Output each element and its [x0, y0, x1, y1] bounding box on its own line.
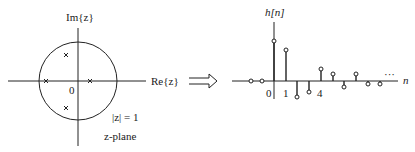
sample-marker-icon	[307, 90, 311, 94]
z-plane-diagram: Im{z} Re{z} 0 |z| = 1 z-plane	[8, 11, 179, 146]
im-axis-label: Im{z}	[66, 11, 94, 23]
sample-marker-icon	[260, 79, 264, 83]
figure: Im{z} Re{z} 0 |z| = 1 z-plane h[n] n 0 1…	[0, 0, 415, 152]
sample-marker-icon	[249, 79, 253, 83]
sample-marker-icon	[378, 82, 382, 86]
sample-marker-icon	[284, 48, 288, 52]
ellipsis: ···	[384, 68, 395, 80]
sample-marker-icon	[272, 39, 276, 43]
pole-marker-icon	[64, 106, 68, 110]
pole-marker-icon	[64, 53, 68, 57]
origin-label: 0	[69, 84, 75, 96]
sample-marker-icon	[342, 85, 346, 89]
n-axis-label: n	[403, 74, 409, 86]
z-plane-label: z-plane	[104, 130, 136, 142]
implies-arrow-icon	[189, 74, 217, 88]
re-axis-label: Re{z}	[151, 75, 179, 87]
h-axis-label: h[n]	[265, 6, 285, 18]
sample-marker-icon	[331, 72, 335, 76]
sample-marker-icon	[295, 95, 299, 99]
tick-label-1: 1	[283, 87, 289, 99]
tick-label-0: 0	[266, 87, 272, 99]
unit-circle-label: |z| = 1	[112, 111, 139, 123]
tick-label-4: 4	[317, 87, 323, 99]
sample-marker-icon	[319, 67, 323, 71]
stems	[274, 42, 380, 96]
stem-plot: h[n] n 0 1 4 ···	[232, 6, 409, 99]
sample-marker-icon	[354, 72, 358, 76]
sample-marker-icon	[366, 82, 370, 86]
